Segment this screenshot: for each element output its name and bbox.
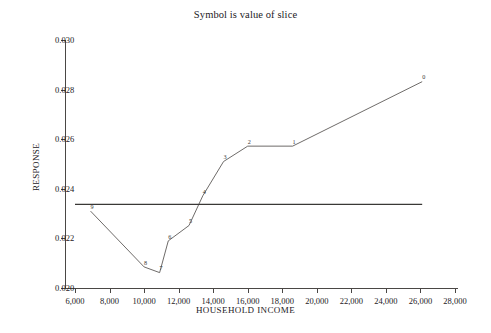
data-point-label: 0	[422, 73, 425, 80]
y-tick-label: 0.022	[55, 233, 56, 243]
data-point-label: 4	[203, 188, 206, 195]
x-tick-label: 22,000	[340, 296, 363, 306]
y-tick-label: 0.024	[55, 184, 56, 194]
data-point-label: 9	[91, 203, 94, 210]
x-tick-label: 6,000	[65, 296, 84, 306]
data-layer: 9876543210	[65, 40, 457, 289]
y-tick-label: 0.026	[55, 134, 56, 144]
x-tick-label: 24,000	[374, 296, 397, 306]
x-tick-label: 10,000	[132, 296, 155, 306]
x-tick-label: 16,000	[236, 296, 259, 306]
data-point-label: 6	[168, 233, 171, 240]
x-tick-label: 28,000	[443, 296, 466, 306]
x-tick-label: 8,000	[100, 296, 119, 306]
x-tick-label: 18,000	[271, 296, 294, 306]
data-point-label: 8	[144, 259, 147, 266]
plot-area: 0.0200.0220.0240.0260.0280.030 6,0008,00…	[65, 40, 457, 288]
x-tick-label: 12,000	[167, 296, 190, 306]
y-tick-label: 0.030	[55, 35, 56, 45]
data-point-label: 2	[248, 138, 251, 145]
x-axis-title: HOUSEHOLD INCOME	[0, 305, 491, 315]
x-tick-label: 20,000	[305, 296, 328, 306]
y-axis-title: RESPONSE	[31, 142, 41, 190]
y-tick-label: 0.020	[55, 283, 56, 293]
x-tick-label: 14,000	[201, 296, 224, 306]
series-line	[91, 82, 423, 273]
x-tick-label: 26,000	[409, 296, 432, 306]
page-title: Symbol is value of slice	[0, 9, 491, 20]
y-tick-label: 0.028	[55, 85, 56, 95]
data-point-label: 5	[189, 217, 192, 224]
data-point-label: 1	[293, 138, 296, 145]
data-point-label: 3	[224, 153, 227, 160]
data-point-labels: 9876543210	[91, 73, 426, 271]
data-point-label: 7	[160, 264, 163, 271]
chart-figure: Symbol is value of slice RESPONSE HOUSEH…	[0, 0, 491, 333]
